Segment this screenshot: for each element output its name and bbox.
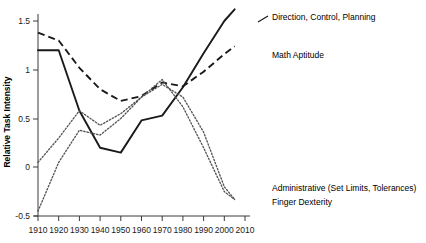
y-tick-label: 1.5 xyxy=(18,16,30,26)
x-tick-label: 2000 xyxy=(215,225,234,235)
x-tick-label: 1910 xyxy=(29,225,48,235)
x-tick-label: 1970 xyxy=(153,225,172,235)
annotation-leaders xyxy=(258,16,268,22)
series-label-math-aptitude: Math Aptitude xyxy=(272,50,324,60)
leader-direction-control-planning xyxy=(258,16,268,22)
y-tick-label: -0.5 xyxy=(15,211,30,221)
y-tick-label: 0.5 xyxy=(18,114,30,124)
series-path-math-aptitude xyxy=(38,33,235,101)
x-tick-label: 1960 xyxy=(132,225,151,235)
y-axis-ticks: 1.5 1 0.5 0 -0.5 xyxy=(15,16,38,221)
y-axis-label: Relative Task Intensity xyxy=(2,76,12,167)
x-tick-label: 1930 xyxy=(70,225,89,235)
x-tick-label: 1940 xyxy=(91,225,110,235)
x-axis-ticks: 1910 1920 1930 1940 1950 1960 1970 1980 … xyxy=(29,216,255,235)
chart-container: Relative Task Intensity 1.5 1 0.5 0 -0.5 xyxy=(0,0,426,243)
x-tick-label: 1990 xyxy=(194,225,213,235)
series-path-direction-control-planning xyxy=(38,9,235,152)
x-tick-label: 1920 xyxy=(49,225,68,235)
series-label-direction-control-planning: Direction, Control, Planning xyxy=(272,12,376,22)
series-label-finger-dexterity: Finger Dexterity xyxy=(272,197,333,207)
x-tick-label: 2010 xyxy=(236,225,255,235)
line-chart: Relative Task Intensity 1.5 1 0.5 0 -0.5 xyxy=(0,0,426,243)
series-layer xyxy=(38,9,235,211)
y-tick-label: 0 xyxy=(25,162,30,172)
series-path-finger-dexterity xyxy=(38,84,235,211)
y-tick-label: 1 xyxy=(25,65,30,75)
series-label-administrative: Administrative (Set Limits, Tolerances) xyxy=(272,183,417,193)
x-tick-label: 1950 xyxy=(111,225,130,235)
x-tick-label: 1980 xyxy=(173,225,192,235)
